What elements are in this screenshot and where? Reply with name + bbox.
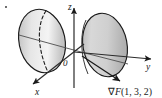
gradient-level-surface-figure: z y x 0 ∇F(1, 3, 2) — [0, 0, 162, 98]
z-axis-label: z — [67, 2, 72, 12]
page-speck-icon — [5, 6, 7, 8]
x-axis-label: x — [34, 87, 40, 97]
z-axis: z — [67, 2, 74, 88]
gradient-label-text: ∇F(1, 3, 2) — [107, 86, 152, 98]
gradient-label-point: (1, 3, 2) — [121, 86, 152, 98]
gradient-vector-label: ∇F(1, 3, 2) — [107, 86, 152, 98]
right-cone-surface — [77, 9, 132, 80]
origin-label: 0 — [63, 58, 68, 68]
figure-canvas: z y x 0 ∇F(1, 3, 2) — [0, 0, 162, 98]
y-axis-label: y — [145, 62, 151, 72]
nabla-icon: ∇ — [107, 86, 115, 97]
